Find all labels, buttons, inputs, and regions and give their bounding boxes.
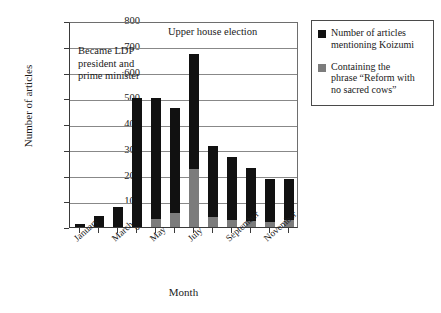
gridline [70, 151, 297, 152]
x-axis-title: Month [69, 286, 298, 298]
grey-square-swatch-icon [318, 64, 326, 72]
bar-june [170, 108, 180, 227]
chart-figure: Number of articles Month 010020030040050… [0, 0, 441, 313]
bar-segment-total [265, 179, 275, 227]
gridline [70, 126, 297, 127]
bar-april [132, 98, 142, 227]
bar-august [208, 146, 218, 227]
bar-november [265, 179, 275, 227]
bar-march [113, 207, 123, 227]
x-axis-tick-mark [212, 228, 213, 233]
chart-legend: Number of articles mentioning Koizumi Co… [311, 20, 434, 106]
bar-segment-phrase [208, 217, 218, 227]
gridline [70, 100, 297, 101]
bar-september [227, 157, 237, 227]
gridline [70, 177, 297, 178]
bar-segment-total [170, 108, 180, 227]
y-axis-tick-mark [64, 228, 69, 229]
bar-segment-phrase [189, 169, 199, 227]
legend-label-total: Number of articles mentioning Koizumi [331, 27, 428, 51]
legend-item-total: Number of articles mentioning Koizumi [318, 27, 428, 51]
bar-segment-total [113, 207, 123, 227]
annotation-upper-house-election: Upper house election [168, 26, 257, 39]
bar-segment-total [208, 146, 218, 227]
annotation-ldp-president: Became LDP president and prime minister [78, 45, 140, 83]
x-axis-tick-mark [288, 228, 289, 233]
bar-segment-total [151, 98, 161, 227]
gridline [70, 203, 297, 204]
y-axis-title: Number of articles [22, 26, 34, 186]
x-axis-tick-mark [136, 228, 137, 233]
legend-label-phrase: Containing the phrase “Reform with no sa… [331, 61, 428, 96]
bar-july [189, 54, 199, 227]
x-axis-tick-mark [98, 228, 99, 233]
bar-segment-total [132, 98, 142, 227]
x-axis-tick-mark [250, 228, 251, 233]
bar-segment-total [227, 157, 237, 227]
x-axis-tick-mark [174, 228, 175, 233]
legend-item-phrase: Containing the phrase “Reform with no sa… [318, 61, 428, 96]
x-axis-tick-label-july: July [186, 225, 204, 243]
black-square-swatch-icon [318, 30, 326, 38]
bar-segment-phrase [170, 213, 180, 227]
bar-may [151, 98, 161, 227]
